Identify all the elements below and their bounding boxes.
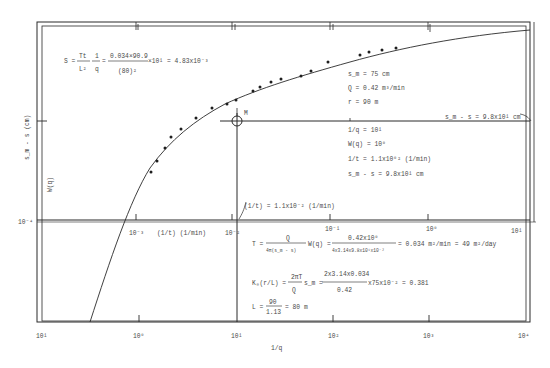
match-wq: W(q) = 10⁰ (348, 141, 386, 148)
svg-text:= 0.034 m²/min = 49 m²/day: = 0.034 m²/min = 49 m²/day (398, 241, 496, 248)
svg-text:1: 1 (95, 53, 99, 60)
match-inv-q: 1/q = 10¹ (348, 127, 382, 134)
mid-axis-label: (1/t) (1/min) (157, 230, 206, 237)
match-point-label: M (244, 110, 248, 117)
param-sm: s_m = 75 cm (348, 71, 390, 78)
match-inv-t: 1/t = 1.1x10⁰² (1/min) (348, 156, 431, 163)
plot-frame (37, 22, 534, 322)
y-axis-label-wq: W(q) (47, 177, 54, 192)
mid-tick-3: 10⁰ (426, 226, 437, 233)
svg-text:0.034×90.9: 0.034×90.9 (110, 53, 148, 60)
data-points (150, 47, 398, 174)
mid-tick-2: 10⁻¹ (325, 226, 340, 233)
bottom-tick-3: 10² (328, 333, 339, 340)
svg-text:0.42: 0.42 (337, 287, 352, 294)
bottom-tick-4: 10³ (423, 333, 434, 340)
svg-text:4π(s_m - s): 4π(s_m - s) (266, 248, 296, 253)
formula-T: T = Q 4π(s_m - s) W(q) = 0.42x10⁰ 4x3.14… (252, 235, 496, 253)
match-sms-note: s_m - s = 9.8x10¹ cm (445, 114, 521, 121)
svg-text:1.13: 1.13 (266, 309, 281, 316)
bottom-tick-1: 10⁰ (133, 333, 144, 340)
type-curve (90, 30, 530, 322)
svg-text:0.42x10⁰: 0.42x10⁰ (348, 235, 378, 242)
bottom-tick-2: 10¹ (231, 333, 242, 340)
formula-K0: K₀(r/L) = 2πT Q s_m = 2x3.14x0.034 0.42 … (252, 271, 429, 294)
params-block: s_m = 75 cm Q = 0.42 m³/min r = 90 m (348, 71, 405, 106)
param-r: r = 90 m (348, 99, 378, 106)
formula-L: L = 90 1.13 = 80 m (252, 299, 308, 316)
svg-text:2πT: 2πT (291, 274, 303, 281)
svg-text:s_m =: s_m = (304, 280, 323, 287)
svg-text:= 80 m: = 80 m (285, 304, 308, 311)
svg-text:S =: S = (64, 58, 76, 65)
mid-tick-0: 10⁻³ (129, 230, 144, 237)
formula-S: S = Tt L² 1 q = 0.034×90.9 (80)² ×10¹ = … (64, 53, 208, 75)
top-ticks (136, 22, 430, 32)
mid-tick-4: 10¹ (511, 228, 522, 235)
svg-text:4x3.14x9.8x10¹x10⁻²: 4x3.14x9.8x10¹x10⁻² (332, 248, 385, 253)
svg-text:2x3.14x0.034: 2x3.14x0.034 (324, 271, 370, 278)
y-tick-middle: 10⁻⁴ (18, 219, 33, 226)
middle-axis (37, 214, 536, 222)
svg-text:Q: Q (292, 287, 296, 294)
mid-tick-1: 10⁻² (225, 230, 240, 237)
svg-text:90: 90 (269, 299, 277, 306)
param-Q: Q = 0.42 m³/min (348, 85, 405, 92)
match-1t-note: (1/t) = 1.1x10⁻² (1/min) (244, 203, 335, 210)
svg-text:W(q) =: W(q) = (308, 241, 331, 248)
x-axis-label: 1/q (271, 345, 283, 352)
svg-text:L²: L² (79, 66, 87, 73)
svg-text:×10¹ = 4.83x10⁻³: ×10¹ = 4.83x10⁻³ (148, 58, 208, 65)
bottom-tick-5: 10⁴ (518, 333, 529, 340)
svg-text:x75x10⁻² = 0.381: x75x10⁻² = 0.381 (368, 280, 429, 287)
svg-text:K₀(r/L) =: K₀(r/L) = (252, 280, 286, 287)
type-curve-chart: s_m - s (cm) W(q) 10⁻⁴ 10⁻³ (1/t) (1/min… (0, 0, 550, 368)
match-sms: s_m - s = 9.8x10¹ cm (348, 171, 424, 178)
bottom-tick-0: 10¹ (36, 333, 47, 340)
svg-text:Tt: Tt (79, 53, 87, 60)
svg-text:q: q (95, 66, 99, 73)
svg-text:=: = (102, 58, 106, 65)
svg-text:T =: T = (252, 241, 264, 248)
svg-text:Q: Q (286, 235, 290, 242)
arrow-sms (520, 114, 531, 121)
y-axis-label-sms: s_m - s (cm) (24, 115, 31, 160)
svg-text:(80)²: (80)² (118, 68, 137, 75)
svg-text:L =: L = (252, 304, 264, 311)
match-block: 1/q = 10¹ W(q) = 10⁰ 1/t = 1.1x10⁰² (1/m… (348, 127, 431, 178)
